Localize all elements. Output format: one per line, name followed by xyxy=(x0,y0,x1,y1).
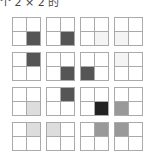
grid-cell xyxy=(129,53,142,66)
grid-2x2 xyxy=(46,87,75,116)
grid-cell xyxy=(115,123,128,136)
grid-cell xyxy=(47,123,60,136)
grid-cell xyxy=(129,102,142,115)
grid-cell xyxy=(81,32,94,45)
grid-cell xyxy=(129,32,142,45)
grid-cell xyxy=(13,102,26,115)
grid-2x2 xyxy=(114,52,143,81)
grid-cell xyxy=(81,123,94,136)
grid-cell xyxy=(61,88,74,101)
grid-2x2 xyxy=(114,17,143,46)
grid-cell xyxy=(47,88,60,101)
grid-cell xyxy=(95,53,108,66)
grid-cell xyxy=(81,88,94,101)
grid-cell xyxy=(27,123,40,136)
grid-cell xyxy=(115,67,128,80)
grid-cell xyxy=(47,67,60,80)
grid-cell xyxy=(61,123,74,136)
grid-cell xyxy=(27,32,40,45)
grid-cell xyxy=(61,67,74,80)
grid-2x2 xyxy=(114,122,143,151)
grid-cell xyxy=(27,102,40,115)
grid-cell xyxy=(61,102,74,115)
grid-2x2 xyxy=(12,87,41,116)
grid-cell xyxy=(115,32,128,45)
grid-cell xyxy=(115,18,128,31)
grid-cell xyxy=(115,53,128,66)
grid-cell xyxy=(95,88,108,101)
grid-cell xyxy=(95,102,108,115)
grid-cell xyxy=(47,53,60,66)
grid-cell xyxy=(95,67,108,80)
grid-cell xyxy=(13,67,26,80)
grid-cell xyxy=(115,137,128,150)
grid-2x2 xyxy=(12,122,41,151)
grid-cell xyxy=(13,137,26,150)
grid-cell xyxy=(47,102,60,115)
grid-2x2 xyxy=(12,17,41,46)
grid-cell xyxy=(81,102,94,115)
grid-cell xyxy=(13,32,26,45)
grid-cell xyxy=(129,137,142,150)
grid-2x2 xyxy=(46,52,75,81)
grid-cell xyxy=(27,88,40,101)
grid-2x2 xyxy=(80,17,109,46)
grid-cell xyxy=(13,123,26,136)
caption-text: 个 2 × 2 的 xyxy=(0,0,59,9)
grid-cell xyxy=(129,18,142,31)
grid-2x2 xyxy=(46,122,75,151)
grid-cell xyxy=(95,123,108,136)
grid-cell xyxy=(129,88,142,101)
grid-cell xyxy=(27,18,40,31)
grid-cell xyxy=(129,123,142,136)
grid-cell xyxy=(27,67,40,80)
grid-cell xyxy=(47,137,60,150)
grid-cell xyxy=(13,88,26,101)
grid-cell xyxy=(61,18,74,31)
grid-cell xyxy=(47,18,60,31)
grid-2x2 xyxy=(46,17,75,46)
grid-cell xyxy=(95,137,108,150)
grid-cell xyxy=(81,67,94,80)
grid-cell xyxy=(13,18,26,31)
grid-cell xyxy=(81,18,94,31)
grid-cell xyxy=(129,67,142,80)
grid-cell xyxy=(27,137,40,150)
grid-cell xyxy=(13,53,26,66)
grid-cell xyxy=(115,102,128,115)
grid-cell xyxy=(95,32,108,45)
grid-2x2 xyxy=(80,87,109,116)
grid-cell xyxy=(115,88,128,101)
grid-2x2 xyxy=(80,122,109,151)
grid-2x2 xyxy=(80,52,109,81)
grid-cell xyxy=(61,137,74,150)
grid-cell xyxy=(81,53,94,66)
grid-cell xyxy=(61,53,74,66)
grid-2x2 xyxy=(114,87,143,116)
grid-cell xyxy=(81,137,94,150)
grid-cell xyxy=(61,32,74,45)
grid-cell xyxy=(27,53,40,66)
grid-2x2 xyxy=(12,52,41,81)
grid-cell xyxy=(95,18,108,31)
grid-cell xyxy=(47,32,60,45)
